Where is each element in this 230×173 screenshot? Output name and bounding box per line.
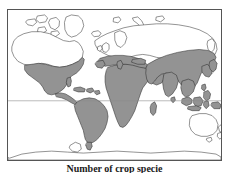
clipped-header-text — [7, 0, 222, 6]
map-frame — [7, 9, 222, 161]
australia-outline — [189, 114, 218, 137]
arctic-islands-a — [36, 15, 47, 23]
map-canvas — [8, 10, 221, 160]
florida-shaded — [66, 77, 71, 87]
figure-world-distribution-map: Number of crop specie — [0, 0, 230, 173]
figure-caption: Number of crop specie — [7, 163, 222, 173]
antarctica-outline — [8, 151, 221, 160]
